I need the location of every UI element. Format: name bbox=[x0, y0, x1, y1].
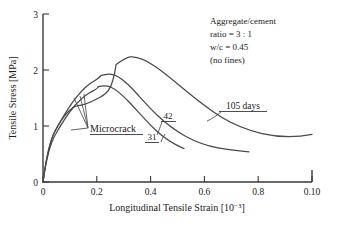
curve-105-days bbox=[43, 57, 312, 182]
x-tick-label-4: 0.8 bbox=[252, 187, 264, 197]
x-ticks bbox=[43, 176, 312, 182]
x-tick-label-5: 0.10 bbox=[304, 187, 321, 197]
stress-strain-chart: 0 1 2 3 0 0.2 0.4 0.6 0.8 0.10 Longitudi… bbox=[0, 0, 339, 227]
microcrack-leaders bbox=[71, 94, 88, 130]
note-aggregate-cement: Aggregate/cement bbox=[210, 16, 276, 26]
y-tick-label-1: 1 bbox=[33, 122, 38, 132]
x-tick-label-3: 0.6 bbox=[198, 187, 210, 197]
note-ratio: ratio = 3 : 1 bbox=[210, 29, 252, 39]
annotation-block: Aggregate/cement ratio = 3 : 1 w/c = 0.4… bbox=[210, 16, 276, 65]
x-tick-label-0: 0 bbox=[41, 187, 46, 197]
x-axis-unit-close: ] bbox=[242, 202, 245, 213]
curve-label-105-days: 105 days bbox=[226, 101, 260, 111]
x-tick-label-1: 0.2 bbox=[91, 187, 103, 197]
y-axis-title: Tensile Stress [MPa] bbox=[7, 56, 18, 139]
x-axis-title: Longitudinal Tensile Strain [10−3] bbox=[109, 202, 245, 213]
y-tick-label-0: 0 bbox=[33, 178, 38, 188]
y-tick-label-3: 3 bbox=[33, 10, 38, 20]
x-axis-title-main: Longitudinal Tensile Strain bbox=[109, 202, 218, 213]
curve-label-105-leader bbox=[207, 112, 221, 121]
curve-42 bbox=[43, 74, 249, 182]
y-tick-labels: 0 1 2 3 bbox=[33, 10, 38, 188]
curve-label-42: 42 bbox=[164, 111, 173, 121]
y-tick-label-2: 2 bbox=[33, 66, 38, 76]
note-no-fines: (no fines) bbox=[210, 55, 245, 65]
curve-label-31: 31 bbox=[148, 132, 157, 142]
x-tick-labels: 0 0.2 0.4 0.6 0.8 0.10 bbox=[41, 187, 321, 197]
note-wc: w/c = 0.45 bbox=[210, 42, 249, 52]
x-axis-unit-open: [10 bbox=[221, 202, 234, 213]
microcrack-leader-4 bbox=[71, 128, 88, 130]
curves bbox=[43, 57, 312, 182]
microcrack-leader-2 bbox=[80, 96, 88, 128]
microcrack-label: Microcrack bbox=[90, 123, 136, 134]
figure-container: 0 1 2 3 0 0.2 0.4 0.6 0.8 0.10 Longitudi… bbox=[0, 0, 339, 227]
x-tick-label-2: 0.4 bbox=[145, 187, 157, 197]
